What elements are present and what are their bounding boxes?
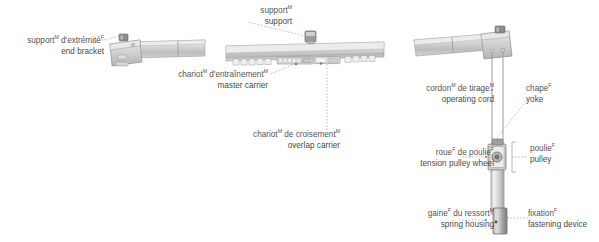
callout-overlap-carrier-en: overlap carrier — [230, 141, 340, 152]
middle-track-assembly — [226, 31, 384, 65]
end-bracket-slot — [118, 55, 127, 59]
callout-end-bracket: supportM d'extrémitéF end bracket — [8, 36, 104, 57]
callout-master-carrier: chariotM d'entraînementM master carrier — [158, 70, 268, 91]
pulley-group-bracket — [512, 142, 528, 172]
callout-support: supportM support — [196, 6, 292, 27]
callout-operating-cord: cordonM de tirageM operating cord — [388, 84, 494, 105]
cord-exit-hole-1 — [490, 49, 494, 53]
callout-master-carrier-fr: chariotM d'entraînementM — [158, 70, 268, 81]
yoke-clip — [492, 139, 503, 145]
callout-overlap-carrier-fr: chariotM de croisementM — [230, 130, 340, 141]
callout-yoke: chapeF yoke — [526, 84, 596, 105]
callout-operating-cord-en: operating cord — [388, 95, 494, 106]
left-track-assembly — [110, 34, 205, 66]
callout-master-carrier-en: master carrier — [158, 81, 268, 92]
callout-support-fr: supportM — [196, 6, 292, 17]
cord-exit-hole-2 — [501, 48, 505, 52]
callout-pulley-fr: poulieF — [530, 144, 598, 155]
callout-support-en: support — [196, 17, 292, 28]
callout-fastening-device-fr: fixationF — [528, 209, 598, 220]
callout-pulley: poulieF pulley — [530, 144, 598, 165]
callout-fastening-device-en: fastening device — [528, 220, 598, 231]
carriers-left-group — [233, 59, 271, 65]
pulley-wheel-hub — [495, 155, 499, 159]
fastening-screw — [495, 221, 498, 224]
callout-spring-housing: gaineF du ressortM spring housing — [380, 209, 494, 230]
callout-yoke-fr: chapeF — [526, 84, 596, 95]
callout-operating-cord-fr: cordonM de tirageM — [388, 84, 494, 95]
end-bracket-screw — [119, 34, 128, 41]
callout-yoke-en: yoke — [526, 95, 596, 106]
callout-end-bracket-fr: supportM d'extrémitéF — [8, 36, 104, 47]
end-bracket-hole — [131, 43, 134, 46]
end-bracket-tab — [116, 62, 128, 66]
callout-tension-pulley-wheel-en: tension pulley wheel — [380, 159, 494, 170]
callout-spring-housing-fr: gaineF du ressortM — [380, 209, 494, 220]
callout-overlap-carrier: chariotM de croisementM overlap carrier — [230, 130, 340, 151]
callout-pulley-en: pulley — [530, 155, 598, 166]
callout-end-bracket-en: end bracket — [8, 47, 104, 58]
right-bracket-screw-highlight — [497, 28, 500, 32]
overlap-carrier — [314, 57, 340, 65]
callout-spring-housing-en: spring housing — [380, 220, 494, 231]
callout-fastening-device: fixationF fastening device — [528, 209, 598, 230]
support-bracket — [305, 31, 316, 44]
callout-tension-pulley-wheel: roueF de poulieF tension pulley wheel — [380, 148, 494, 169]
callout-tension-pulley-wheel-fr: roueF de poulieF — [380, 148, 494, 159]
